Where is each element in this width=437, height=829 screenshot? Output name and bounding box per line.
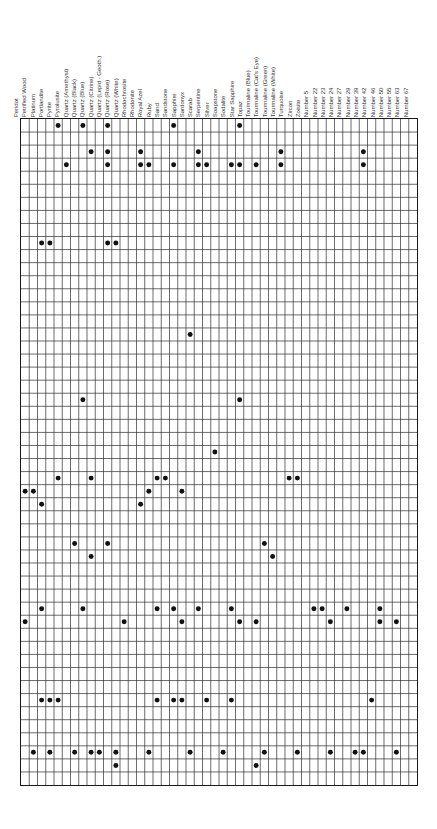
matrix-dot[interactable] (237, 397, 242, 402)
matrix-dot[interactable] (105, 541, 110, 546)
matrix-dot[interactable] (105, 123, 110, 128)
matrix-dot[interactable] (39, 241, 44, 246)
matrix-dot[interactable] (56, 123, 61, 128)
matrix-dot[interactable] (369, 698, 374, 703)
matrix-dot[interactable] (254, 763, 259, 768)
matrix-dot[interactable] (204, 162, 209, 167)
matrix-dot[interactable] (39, 606, 44, 611)
matrix-dot[interactable] (171, 606, 176, 611)
matrix-dot[interactable] (394, 619, 399, 624)
matrix-dot[interactable] (56, 476, 61, 481)
matrix-dot[interactable] (47, 241, 52, 246)
matrix-dot[interactable] (196, 149, 201, 154)
matrix-dot[interactable] (105, 241, 110, 246)
matrix-dot[interactable] (72, 541, 77, 546)
matrix-dot[interactable] (229, 162, 234, 167)
matrix-dot[interactable] (138, 149, 143, 154)
matrix-dot[interactable] (80, 397, 85, 402)
matrix-dot[interactable] (146, 489, 151, 494)
matrix-dot[interactable] (171, 123, 176, 128)
matrix-dot[interactable] (31, 750, 36, 755)
matrix-dot[interactable] (89, 149, 94, 154)
matrix-dot[interactable] (23, 489, 28, 494)
matrix-dot[interactable] (47, 698, 52, 703)
matrix-dot[interactable] (237, 619, 242, 624)
matrix-dot[interactable] (171, 162, 176, 167)
matrix-dot[interactable] (80, 123, 85, 128)
matrix-dot[interactable] (254, 619, 259, 624)
column-label: Quartz (Amethyst) (61, 0, 69, 118)
matrix-dot[interactable] (361, 149, 366, 154)
matrix-dot[interactable] (237, 123, 242, 128)
matrix-dot[interactable] (361, 162, 366, 167)
matrix-dot[interactable] (229, 606, 234, 611)
matrix-dot[interactable] (163, 476, 168, 481)
matrix-dot[interactable] (179, 619, 184, 624)
matrix-dot[interactable] (295, 750, 300, 755)
matrix-dot[interactable] (179, 698, 184, 703)
matrix-dot[interactable] (105, 149, 110, 154)
matrix-dot[interactable] (221, 750, 226, 755)
column-label: Sodalite (219, 0, 227, 118)
matrix-dot[interactable] (188, 750, 193, 755)
matrix-dot[interactable] (155, 606, 160, 611)
matrix-dot[interactable] (212, 450, 217, 455)
matrix-dot[interactable] (262, 541, 267, 546)
matrix-dot[interactable] (254, 162, 259, 167)
matrix-dot[interactable] (394, 750, 399, 755)
presence-grid[interactable] (20, 118, 418, 786)
matrix-dot[interactable] (113, 750, 118, 755)
matrix-dot[interactable] (155, 698, 160, 703)
matrix-dot[interactable] (204, 698, 209, 703)
matrix-dot[interactable] (89, 476, 94, 481)
matrix-dot[interactable] (39, 698, 44, 703)
matrix-dot[interactable] (311, 606, 316, 611)
matrix-dot[interactable] (361, 750, 366, 755)
matrix-dot[interactable] (295, 476, 300, 481)
matrix-dot[interactable] (105, 162, 110, 167)
matrix-dot[interactable] (113, 241, 118, 246)
column-label: Tourmaline (Cat's Eye) (252, 0, 260, 118)
matrix-dot[interactable] (287, 476, 292, 481)
matrix-dot[interactable] (188, 332, 193, 337)
matrix-dot[interactable] (278, 149, 283, 154)
matrix-dot[interactable] (377, 619, 382, 624)
matrix-dot[interactable] (344, 606, 349, 611)
matrix-dot[interactable] (47, 750, 52, 755)
matrix-dot[interactable] (353, 750, 358, 755)
matrix-dot[interactable] (72, 750, 77, 755)
matrix-dot[interactable] (278, 162, 283, 167)
column-label: Number 67 (401, 0, 409, 118)
matrix-dot[interactable] (328, 619, 333, 624)
matrix-dot[interactable] (196, 606, 201, 611)
matrix-dot[interactable] (196, 162, 201, 167)
matrix-dot[interactable] (31, 489, 36, 494)
matrix-dot[interactable] (56, 698, 61, 703)
matrix-dot[interactable] (328, 750, 333, 755)
column-label: Number 46 (368, 0, 376, 118)
matrix-dot[interactable] (146, 162, 151, 167)
matrix-dot[interactable] (97, 750, 102, 755)
matrix-dot[interactable] (237, 162, 242, 167)
matrix-dot[interactable] (179, 489, 184, 494)
matrix-dot[interactable] (155, 476, 160, 481)
matrix-dot[interactable] (39, 502, 44, 507)
column-label: Royal Azel (136, 0, 144, 118)
matrix-dot[interactable] (229, 698, 234, 703)
matrix-dot[interactable] (377, 606, 382, 611)
matrix-dot[interactable] (146, 750, 151, 755)
matrix-dot[interactable] (122, 619, 127, 624)
matrix-dot[interactable] (138, 502, 143, 507)
matrix-dot[interactable] (89, 554, 94, 559)
matrix-dot[interactable] (80, 606, 85, 611)
matrix-dot[interactable] (64, 162, 69, 167)
matrix-dot[interactable] (270, 554, 275, 559)
column-label: Turquoise (277, 0, 285, 118)
matrix-dot[interactable] (89, 750, 94, 755)
matrix-dot[interactable] (138, 162, 143, 167)
matrix-dot[interactable] (171, 698, 176, 703)
matrix-dot[interactable] (320, 606, 325, 611)
matrix-dot[interactable] (113, 763, 118, 768)
matrix-dot[interactable] (262, 750, 267, 755)
matrix-dot[interactable] (23, 619, 28, 624)
